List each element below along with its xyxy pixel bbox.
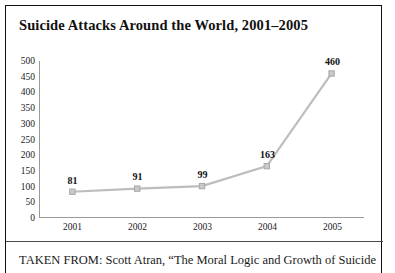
data-point-marker	[264, 163, 269, 168]
y-axis-tick-label: 450	[21, 72, 35, 82]
data-point-marker	[199, 183, 204, 188]
y-axis-tick-label: 100	[21, 182, 35, 192]
data-point-marker	[70, 189, 75, 194]
y-axis-tick-label: 300	[21, 119, 35, 129]
data-point-label: 81	[68, 175, 78, 186]
source-caption: TAKEN FROM: Scott Atran, “The Moral Logi…	[19, 253, 376, 268]
x-axis-tick-label: 2001	[63, 222, 82, 232]
data-point-label: 91	[133, 171, 143, 182]
y-axis-tick-label: 250	[21, 135, 35, 145]
caption-divider	[6, 241, 383, 242]
x-axis-tick-label: 2004	[258, 222, 277, 232]
x-axis-tick-label: 2003	[193, 222, 212, 232]
x-axis-tick-label: 2002	[128, 222, 147, 232]
data-point-marker	[329, 71, 334, 76]
data-point-label: 99	[198, 169, 208, 180]
y-axis-tick-label: 350	[21, 103, 35, 113]
y-axis-tick-label: 50	[26, 197, 36, 207]
plot-area: 5004504003503002502001501005002001200220…	[39, 61, 364, 218]
y-axis-tick-label: 150	[21, 166, 35, 176]
x-axis-tick-label: 2005	[323, 222, 342, 232]
line-series	[40, 61, 364, 217]
chart-region: 5004504003503002502001501005002001200220…	[6, 50, 383, 240]
data-point-label: 460	[325, 56, 340, 67]
data-point-label: 163	[260, 149, 275, 160]
y-axis-tick-label: 0	[30, 213, 35, 223]
y-axis-tick-label: 200	[21, 150, 35, 160]
data-point-marker	[135, 186, 140, 191]
figure-container: Suicide Attacks Around the World, 2001–2…	[5, 5, 382, 273]
y-axis-tick-label: 400	[21, 87, 35, 97]
y-axis-tick-label: 500	[21, 56, 35, 66]
page-title: Suicide Attacks Around the World, 2001–2…	[19, 17, 308, 34]
